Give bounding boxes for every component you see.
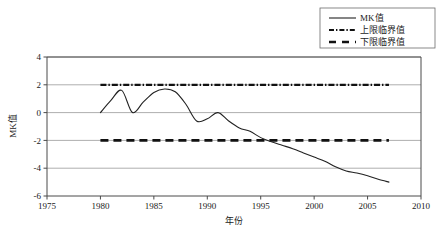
chart-legend: MK值上限临界值下限临界值 (320, 8, 435, 48)
legend-label-2: 上限临界值 (360, 24, 405, 35)
y-tick-label-4: 4 (37, 52, 42, 62)
x-axis-title: 年份 (225, 215, 243, 226)
x-tick-label-1985: 1985 (145, 201, 164, 211)
legend-label-3: 下限临界值 (360, 36, 405, 47)
x-tick-label-1990: 1990 (198, 201, 217, 211)
x-tick-label-2000: 2000 (305, 201, 324, 211)
y-tick-label-2: 2 (37, 80, 42, 90)
y-tick-label--6: -6 (34, 191, 42, 201)
y-tick-label--4: -4 (34, 163, 42, 173)
mk-trend-chart: 420-2-4-6 197519801985199019952000200520… (0, 0, 441, 234)
y-tick-label--2: -2 (34, 136, 42, 146)
y-tick-label-0: 0 (37, 108, 42, 118)
x-tick-label-1975: 1975 (38, 201, 57, 211)
legend-label-1: MK值 (360, 12, 384, 23)
y-axis-title: MK值 (7, 114, 18, 138)
x-tick-label-1995: 1995 (252, 201, 271, 211)
x-tick-label-2010: 2010 (412, 201, 431, 211)
x-tick-label-2005: 2005 (359, 201, 378, 211)
chart-canvas: 420-2-4-6 197519801985199019952000200520… (0, 0, 441, 234)
x-tick-label-1980: 1980 (91, 201, 110, 211)
